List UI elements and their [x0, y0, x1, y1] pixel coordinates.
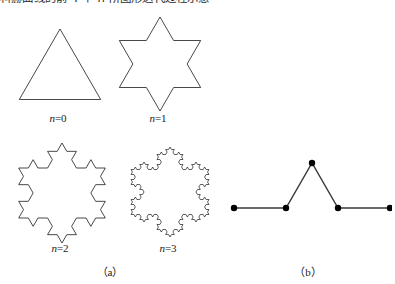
koch-n0 — [8, 14, 108, 110]
koch-n2-svg — [6, 140, 114, 240]
koch-generator-vertex-left-inner — [283, 205, 289, 211]
koch-n0-label: n=0 — [8, 112, 108, 124]
koch-n1-label-value: 1 — [161, 112, 167, 124]
koch-n1-outline — [119, 17, 200, 111]
koch-n3-label-value: 3 — [171, 242, 177, 254]
koch-generator-polyline — [234, 163, 390, 208]
koch-n3-svg — [120, 142, 216, 240]
koch-n2-outline — [19, 143, 106, 243]
koch-generator-svg — [224, 152, 392, 222]
panel-caption-b: （b） — [268, 266, 348, 278]
koch-n1-label: n=1 — [108, 112, 208, 124]
koch-n1-svg — [108, 14, 208, 110]
koch-n3 — [120, 142, 216, 240]
koch-n3-outline — [131, 147, 209, 237]
figure-root: 科赫曲线的前 4 个 n 阶图形迭代过程示意 n=0n=1n=2n=3 （a）（… — [0, 0, 395, 284]
koch-n1 — [108, 14, 208, 110]
koch-generator-vertex-start — [231, 205, 237, 211]
koch-n2 — [6, 140, 114, 240]
header-text: 科赫曲线的前 4 个 n 阶图形迭代过程示意 — [0, 0, 395, 5]
koch-n2-label: n=2 — [6, 242, 114, 254]
koch-n0-outline — [19, 29, 100, 100]
koch-generator-vertex-right-inner — [335, 205, 341, 211]
koch-generator — [224, 152, 392, 222]
koch-generator-vertex-end — [387, 205, 392, 211]
koch-n0-label-value: 0 — [61, 112, 67, 124]
panel-caption-a: （a） — [70, 266, 150, 278]
koch-n3-label: n=3 — [120, 242, 216, 254]
koch-n2-label-value: 2 — [63, 242, 69, 254]
koch-n0-svg — [8, 14, 108, 110]
koch-generator-vertex-apex — [309, 160, 315, 166]
